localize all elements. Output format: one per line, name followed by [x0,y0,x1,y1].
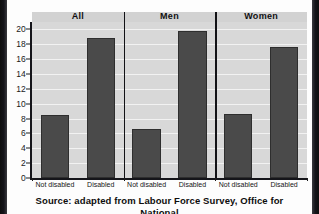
scan-edge-left [0,0,7,214]
x-axis-tick-mark [32,178,33,181]
y-axis-tick-14: 14 [16,70,26,79]
source-caption: Source: adapted from Labour Force Survey… [16,195,303,214]
x-axis-tick-mark [215,178,216,181]
x-axis-category-labels: Not disabledDisabledNot disabledDisabled… [32,180,307,192]
x-label-men-1: Disabled [170,180,216,190]
y-axis-tick-18: 18 [16,40,26,49]
panel-women: Women [215,12,307,178]
figure-page: AllMenWomen 02468101214161820 Not disabl… [0,0,319,214]
y-axis-tick-10: 10 [16,99,26,108]
panel-title-men: Men [124,11,216,22]
x-axis-tick-mark [124,178,125,181]
plot-area: AllMenWomen [32,12,307,178]
x-label-women-1: Disabled [261,180,307,190]
y-axis-tick-12: 12 [16,85,26,94]
y-axis-tick-labels: 02468101214161820 [8,22,30,178]
scan-edge-right [312,0,319,214]
bar-chart-figure: AllMenWomen 02468101214161820 Not disabl… [8,0,311,214]
x-label-all-1: Disabled [78,180,124,190]
panel-title-women: Women [215,11,307,22]
bar-men-disabled [178,31,206,178]
panel-separator [215,12,217,178]
y-axis-tick-16: 16 [16,55,26,64]
panel-all: All [32,12,124,178]
bar-men-not-disabled [132,129,160,178]
x-label-all-0: Not disabled [32,180,78,190]
panel-separator [124,12,126,178]
bar-all-not-disabled [41,115,69,178]
panel-men: Men [124,12,216,178]
bar-women-not-disabled [224,114,252,178]
y-axis-spine [30,22,32,179]
panel-title-all: All [32,11,124,22]
bar-all-disabled [87,38,115,178]
x-axis-tick-mark [307,178,308,181]
x-label-men-0: Not disabled [124,180,170,190]
bar-women-disabled [270,47,298,178]
y-axis-tick-20: 20 [16,25,26,34]
x-label-women-0: Not disabled [215,180,261,190]
